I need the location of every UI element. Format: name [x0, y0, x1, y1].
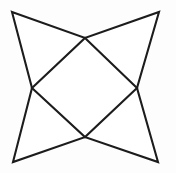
- figure-canvas: [0, 0, 176, 173]
- four-pointed-star-svg: [0, 0, 176, 173]
